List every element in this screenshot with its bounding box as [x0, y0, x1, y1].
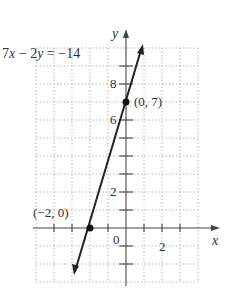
point-x-intercept: [87, 225, 94, 232]
point-label-y-intercept: (0, 7): [134, 95, 162, 108]
x-tick-label-0: 0: [113, 233, 120, 246]
y-tick-label-2: 2: [110, 185, 117, 198]
x-tick-label-2: 2: [159, 240, 166, 253]
x-axis-label: x: [212, 234, 218, 248]
equation-line: [72, 44, 144, 275]
point-label-x-intercept: (−2, 0): [33, 206, 69, 219]
y-tick-label-6: 6: [110, 113, 117, 126]
arrow-down-icon: [72, 264, 79, 275]
point-y-intercept: [123, 99, 130, 106]
y-axis-label: y: [112, 27, 118, 41]
y-axis: [123, 29, 129, 286]
equation-label: 7x − 2y = −14: [2, 47, 80, 61]
y-tick-label-8: 8: [110, 77, 117, 90]
arrow-up-icon: [137, 44, 144, 55]
